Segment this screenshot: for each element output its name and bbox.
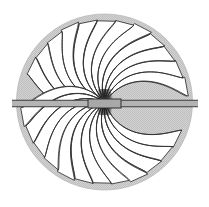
- horizontal-conductor-rod: [12, 99, 198, 108]
- center-core-block: [88, 99, 121, 108]
- figure-root: [0, 0, 209, 207]
- field-line-diagram: [0, 0, 209, 207]
